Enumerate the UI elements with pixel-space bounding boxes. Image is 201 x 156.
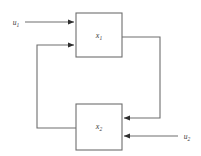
signal-feedback-x2-to-x1 — [37, 45, 76, 128]
block-diagram-canvas: x1 x2 u1 u2 — [0, 0, 201, 156]
input-u1-label: u1 — [13, 18, 20, 28]
diagram-svg: x1 x2 u1 u2 — [0, 0, 201, 156]
block-x2-label-subscript: 2 — [99, 126, 102, 132]
signal-feedback-x1-to-x2 — [122, 37, 160, 118]
block-x1-label-subscript: 1 — [99, 35, 102, 41]
input-u2-label: u2 — [184, 132, 191, 142]
input-u1-label-subscript: 1 — [17, 22, 20, 28]
input-u2-label-subscript: 2 — [188, 136, 191, 142]
